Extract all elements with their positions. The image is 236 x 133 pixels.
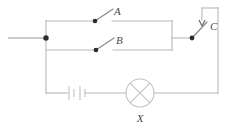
lamp-symbol — [126, 79, 154, 107]
switch-a[interactable] — [93, 9, 113, 23]
switch-b-label: B — [116, 34, 123, 46]
switch-c-contact-left-tick — [199, 20, 202, 26]
switch-b-pivot-dot — [94, 48, 99, 53]
circuit-diagram: A B C X — [0, 0, 236, 133]
switch-b[interactable] — [94, 38, 114, 52]
wire-network — [8, 8, 218, 94]
lamp-label: X — [136, 112, 145, 124]
circuit-schematic-canvas: A B C X — [0, 0, 236, 133]
battery-symbol — [69, 86, 85, 100]
switch-c-label: C — [210, 20, 218, 32]
switch-c-pivot-dot — [190, 36, 195, 41]
switch-a-label: A — [113, 5, 121, 17]
switch-b-blade[interactable] — [96, 38, 114, 50]
switch-c-blade[interactable] — [192, 22, 207, 38]
switch-c[interactable] — [190, 20, 207, 40]
switch-a-blade[interactable] — [95, 9, 113, 21]
switch-a-pivot-dot — [93, 19, 98, 24]
left-junction-dot — [43, 35, 48, 40]
